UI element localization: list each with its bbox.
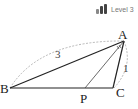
side-ab: [10, 41, 124, 88]
point-b-label: B: [0, 81, 9, 96]
length-ac-label: 1: [123, 62, 129, 74]
length-ab-label: 3: [55, 48, 61, 60]
triangle-diagram: A B C P 3 1: [0, 0, 138, 109]
point-a-label: A: [118, 27, 128, 42]
point-c-label: C: [116, 85, 125, 100]
point-p-label: P: [80, 91, 87, 106]
